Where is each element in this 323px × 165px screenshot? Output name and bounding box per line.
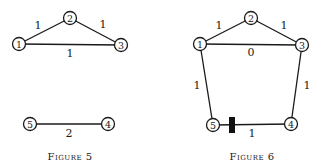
figure-5-caption: Figure 5 <box>47 151 92 162</box>
node-1: 1 <box>194 38 207 51</box>
node-3: 3 <box>296 39 309 52</box>
svg-text:1: 1 <box>197 39 203 50</box>
figure-5: 1 1 1 2 1 2 3 5 4 Figure 5 <box>13 12 128 163</box>
svg-text:2: 2 <box>248 13 254 24</box>
edge-1-2 <box>19 18 70 44</box>
node-5: 5 <box>24 118 37 131</box>
svg-text:3: 3 <box>118 40 124 51</box>
edge-3-4 <box>291 45 302 124</box>
edge-weight-2-3: 1 <box>100 18 107 31</box>
edge-weight-3-4: 1 <box>304 79 311 92</box>
graph-diagrams: 1 1 1 2 1 2 3 5 4 Figure 5 1 1 0 1 1 1 1… <box>0 0 323 165</box>
edge-5-4 <box>213 124 291 125</box>
edge-weight-2-3: 1 <box>281 19 288 32</box>
svg-text:1: 1 <box>16 39 22 50</box>
edge-weight-1-3: 0 <box>248 46 255 59</box>
edge-weight-5-4: 2 <box>66 127 73 140</box>
node-5: 5 <box>207 119 220 132</box>
edge-weight-1-5: 1 <box>194 79 201 92</box>
edge-weight-1-2: 1 <box>216 19 223 32</box>
svg-text:5: 5 <box>27 119 33 130</box>
cut-marker-icon <box>229 117 235 133</box>
svg-text:5: 5 <box>210 120 216 131</box>
svg-text:4: 4 <box>288 119 294 130</box>
svg-text:3: 3 <box>299 40 305 51</box>
node-4: 4 <box>102 118 115 131</box>
svg-text:2: 2 <box>67 13 73 24</box>
edge-weight-1-2: 1 <box>35 19 42 32</box>
edge-2-3 <box>251 18 302 45</box>
node-2: 2 <box>245 12 258 25</box>
figure-6: 1 1 0 1 1 1 1 2 3 5 4 Figure 6 <box>194 12 311 163</box>
node-1: 1 <box>13 38 26 51</box>
edge-weight-1-3: 1 <box>67 47 74 60</box>
node-3: 3 <box>115 39 128 52</box>
edge-weight-5-4: 1 <box>249 127 256 140</box>
figure-6-caption: Figure 6 <box>229 151 274 162</box>
edge-1-2 <box>200 18 251 44</box>
edge-1-5 <box>200 44 213 125</box>
edge-2-3 <box>70 18 121 45</box>
svg-text:4: 4 <box>105 119 111 130</box>
edge-1-3 <box>19 44 121 45</box>
node-4: 4 <box>285 118 298 131</box>
node-2: 2 <box>64 12 77 25</box>
